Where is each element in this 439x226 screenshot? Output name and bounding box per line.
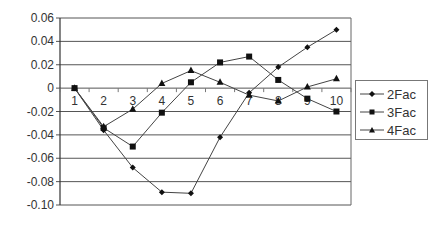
svg-text:0: 0: [47, 81, 54, 95]
svg-text:-0.04: -0.04: [27, 128, 55, 142]
legend-label: 3Fac: [387, 105, 416, 120]
y-axis-tick-labels: 0.060.040.020-0.02-0.04-0.06-0.08-0.10: [27, 11, 55, 212]
svg-text:6: 6: [217, 94, 224, 108]
svg-text:2: 2: [100, 94, 107, 108]
legend: 2Fac 3Fac 4Fac: [355, 80, 428, 140]
svg-text:5: 5: [188, 94, 195, 108]
legend-label: 4Fac: [387, 123, 416, 138]
svg-text:1: 1: [71, 94, 78, 108]
x-axis-tick-labels: 12345678910: [71, 94, 343, 108]
legend-item-4fac: 4Fac: [360, 122, 416, 138]
svg-text:-0.10: -0.10: [27, 198, 55, 212]
svg-text:-0.02: -0.02: [27, 105, 55, 119]
legend-item-3fac: 3Fac: [360, 104, 416, 120]
svg-text:-0.06: -0.06: [27, 151, 55, 165]
svg-text:0.04: 0.04: [31, 34, 55, 48]
legend-label: 2Fac: [387, 87, 416, 102]
legend-item-2fac: 2Fac: [360, 86, 416, 102]
svg-text:4: 4: [159, 94, 166, 108]
svg-text:10: 10: [330, 94, 344, 108]
svg-text:0.06: 0.06: [31, 11, 55, 25]
triangle-marker-icon: [360, 125, 384, 135]
diamond-marker-icon: [360, 89, 384, 99]
svg-text:-0.08: -0.08: [27, 175, 55, 189]
svg-text:0.02: 0.02: [31, 58, 55, 72]
square-marker-icon: [360, 107, 384, 117]
